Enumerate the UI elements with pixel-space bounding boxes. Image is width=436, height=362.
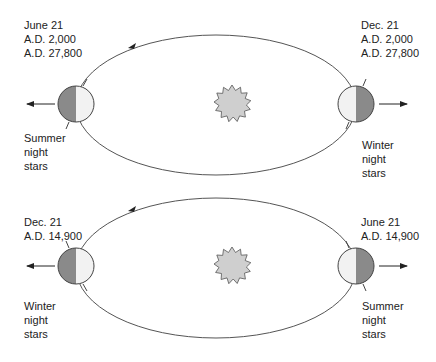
sun-icon — [214, 247, 251, 284]
top-panel — [27, 35, 407, 175]
orbit-ellipse — [76, 198, 356, 338]
bottom-right-date-label: June 21 A.D. 14,900 — [361, 215, 419, 243]
earth-left-icon — [58, 241, 94, 291]
sun-icon — [214, 85, 251, 122]
bottom-left-stars-label: Winter night stars — [24, 299, 56, 341]
earth-right-icon — [338, 79, 374, 129]
top-right-stars-label: Winter night stars — [362, 138, 394, 180]
bottom-right-stars-label: Summer night stars — [362, 299, 404, 341]
bottom-panel — [27, 198, 407, 338]
earth-right-icon — [338, 241, 374, 291]
bottom-left-date-label: Dec. 21 A.D. 14,900 — [24, 215, 82, 243]
top-right-date-label: Dec. 21 A.D. 2,000 A.D. 27,800 — [361, 18, 419, 60]
top-left-date-label: June 21 A.D. 2,000 A.D. 27,800 — [24, 18, 82, 60]
orbit-ellipse — [76, 35, 356, 175]
earth-left-icon — [58, 79, 94, 129]
top-left-stars-label: Summer night stars — [24, 131, 66, 173]
